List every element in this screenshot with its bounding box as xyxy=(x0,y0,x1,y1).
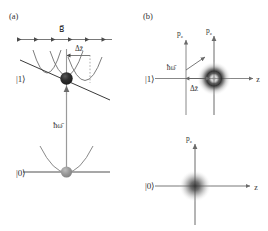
ground-wigner-blob xyxy=(179,170,211,202)
energy-label-b: ħω̄ xyxy=(167,63,178,72)
momentum-axis-label-ground: pz xyxy=(186,134,193,144)
magnetic-field-line xyxy=(17,37,112,41)
momentum-axis-label-right: pz xyxy=(206,26,213,36)
excited-state-label-b: |1⟩ xyxy=(145,74,155,84)
panel-b: (b) pz pz z ħω̄ Δz̄ xyxy=(143,11,260,225)
panel-b-label: (b) xyxy=(143,11,153,21)
displacement-label-b: Δz̄ xyxy=(190,84,199,93)
panel-a: (a) B⃗ Δz̄ xyxy=(9,11,112,178)
excited-phase-space: pz pz z ħω̄ Δz̄ |1⟩ xyxy=(145,26,260,115)
magnetic-field-label: B⃗ xyxy=(59,24,64,34)
panel-a-label: (a) xyxy=(9,11,19,21)
ground-state-label-b: |0⟩ xyxy=(145,181,155,191)
excited-state-particle xyxy=(60,72,72,84)
position-axis-label-ground: z xyxy=(254,183,258,192)
ground-state-particle xyxy=(61,166,72,177)
physics-figure: (a) B⃗ Δz̄ xyxy=(0,0,268,231)
ground-phase-space: pz z |0⟩ xyxy=(145,134,258,225)
energy-label-a: ħω̄ xyxy=(53,121,64,130)
excited-state-label-a: |1⟩ xyxy=(16,74,26,84)
momentum-axis-label-left: pz xyxy=(177,29,184,39)
position-axis-label-excited: z xyxy=(256,75,260,84)
ground-state-label-a: |0⟩ xyxy=(16,168,26,178)
